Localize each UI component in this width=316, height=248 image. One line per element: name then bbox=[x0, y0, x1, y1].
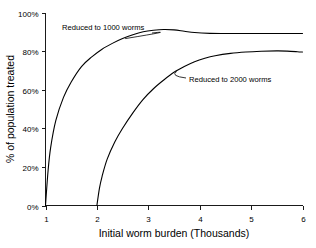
x-axis-title: Initial worm burden (Thousands) bbox=[99, 227, 250, 239]
annotation-label-2000-worms: Reduced to 2000 worms bbox=[189, 75, 272, 84]
x-tick-label: 4 bbox=[198, 215, 203, 224]
y-tick-label: 20% bbox=[22, 164, 38, 173]
x-tick-label: 3 bbox=[146, 215, 151, 224]
y-axis-tick-labels: 0%20%40%60%80%100% bbox=[18, 10, 38, 212]
x-tick-label: 2 bbox=[95, 215, 100, 224]
annotation-label-1000-worms: Reduced to 1000 worms bbox=[62, 23, 145, 32]
x-tick-label: 6 bbox=[301, 215, 306, 224]
y-tick-label: 80% bbox=[22, 48, 38, 57]
line-chart: 0%20%40%60%80%100% 123456 Reduced to 100… bbox=[0, 0, 316, 248]
y-tick-label: 40% bbox=[22, 125, 38, 134]
x-axis-tick-labels: 123456 bbox=[44, 215, 306, 224]
data-series-group bbox=[46, 29, 303, 205]
chart-figure: 0%20%40%60%80%100% 123456 Reduced to 100… bbox=[0, 0, 316, 248]
leader-line-2000-worms bbox=[175, 71, 186, 78]
x-axis-ticks bbox=[47, 206, 304, 210]
y-tick-label: 0% bbox=[27, 203, 39, 212]
x-tick-label: 1 bbox=[44, 215, 49, 224]
series-line-1 bbox=[46, 29, 303, 205]
x-tick-label: 5 bbox=[249, 215, 254, 224]
y-axis-title: % of population treated bbox=[4, 55, 16, 163]
y-tick-label: 100% bbox=[18, 10, 38, 19]
y-axis-ticks bbox=[42, 14, 46, 207]
y-tick-label: 60% bbox=[22, 87, 38, 96]
